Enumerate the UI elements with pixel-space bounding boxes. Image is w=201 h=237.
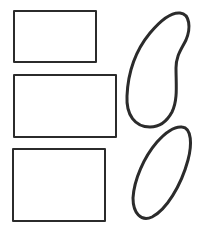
shapes-canvas: [0, 0, 201, 237]
background: [0, 0, 201, 237]
